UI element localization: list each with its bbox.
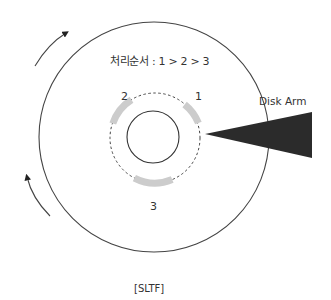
request-label-2: 2 [121,91,128,102]
request-label-1: 1 [195,91,202,102]
rotation-arrow-bottom-icon [27,177,50,216]
spindle-circle [127,111,179,163]
rotation-arrow-top-icon [35,33,66,66]
request-segment-1 [185,104,199,123]
request-segment-2 [113,100,132,124]
request-label-3: 3 [150,201,157,212]
disk-arm [205,112,312,158]
request-segment-3 [134,178,172,183]
diagram-caption: [SLTF] [134,284,164,294]
processing-order-label: 처리순서 : 1 > 2 > 3 [110,56,209,67]
disk-diagram [0,0,331,300]
disk-arm-label: Disk Arm [259,96,306,107]
